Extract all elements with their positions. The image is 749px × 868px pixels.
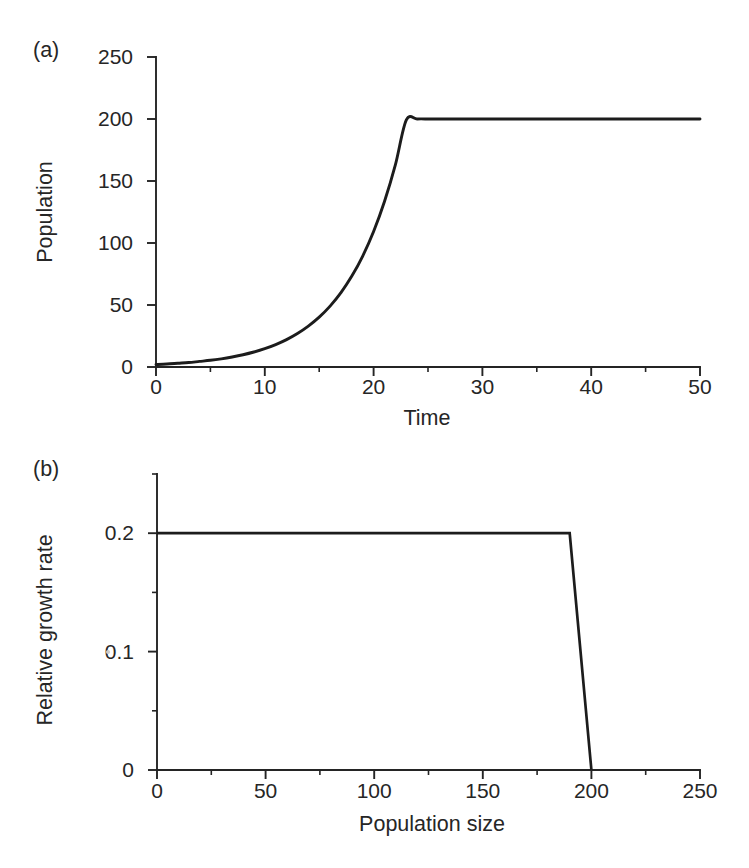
panel-a-plot: 01020304050050100150200250TimePopulation… (0, 0, 749, 434)
y-axis-title-a: Population (33, 161, 57, 263)
x-tick-label-b: 200 (574, 779, 609, 802)
x-tick-label-b: 250 (682, 779, 717, 802)
x-tick-label-b: 150 (465, 779, 500, 802)
x-tick-label-a: 10 (253, 375, 276, 398)
figure-root: 01020304050050100150200250TimePopulation… (0, 0, 749, 868)
x-tick-label-b: 100 (357, 779, 392, 802)
y-tick-label-a: 0 (121, 355, 133, 378)
x-tick-label-a: 50 (688, 375, 711, 398)
panel-label-a: (a) (33, 38, 59, 62)
data-curve-a (156, 116, 700, 364)
y-tick-label-a: 150 (98, 169, 133, 192)
scan-speck (106, 650, 110, 654)
y-tick-label-a: 100 (98, 231, 133, 254)
x-tick-label-a: 0 (150, 375, 162, 398)
x-tick-label-a: 30 (471, 375, 494, 398)
x-tick-label-b: 50 (254, 779, 277, 802)
y-tick-label-a: 200 (98, 107, 133, 130)
data-curve-b (157, 533, 591, 770)
panel-a: 01020304050050100150200250TimePopulation… (0, 0, 749, 434)
y-tick-label-a: 50 (110, 293, 133, 316)
panel-label-b: (b) (33, 457, 59, 481)
y-axis-title-b: Relative growth rate (33, 534, 57, 725)
x-tick-label-b: 0 (151, 779, 163, 802)
panel-b: 05010015020025000.10.2Population sizeRel… (0, 434, 749, 868)
x-tick-label-a: 40 (580, 375, 603, 398)
y-tick-label-a: 250 (98, 45, 133, 68)
y-tick-label-b: 0 (122, 758, 134, 781)
x-axis-title-b: Population size (359, 812, 505, 836)
panel-b-plot: 05010015020025000.10.2Population sizeRel… (0, 434, 749, 868)
y-tick-label-b: 0.2 (105, 521, 134, 544)
x-tick-label-a: 20 (362, 375, 385, 398)
x-axis-title-a: Time (404, 406, 451, 430)
